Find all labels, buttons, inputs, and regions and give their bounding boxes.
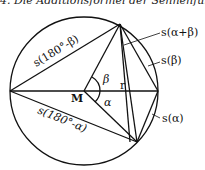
label-s-180-minus-alpha: s(180°-α) — [36, 104, 89, 135]
angle-alpha-arc — [95, 91, 100, 102]
chord-diagram: s(α+β) s(β) s(α) s(180°-β) s(180°-α) M r… — [0, 0, 205, 170]
label-angle-beta: β — [102, 73, 109, 86]
angle-beta-arc — [92, 77, 100, 91]
label-s-180-minus-beta: s(180°-β) — [31, 32, 81, 69]
label-s-alpha-plus-beta: s(α+β) — [161, 26, 198, 39]
label-s-alpha: s(α) — [162, 112, 184, 125]
chord-alpha — [137, 91, 158, 142]
radius-to-top — [84, 24, 120, 91]
label-s-beta: s(β) — [161, 54, 182, 67]
label-radius-r: r — [120, 79, 126, 92]
leader-alpha-plus-beta — [124, 33, 160, 45]
chord-beta — [120, 24, 158, 91]
label-center-m: M — [71, 92, 83, 105]
label-angle-alpha: α — [104, 96, 112, 109]
